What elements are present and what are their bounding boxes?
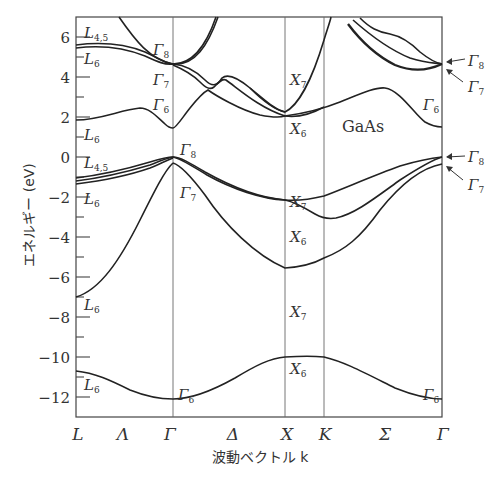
y-tick-m6: −6 [48, 269, 70, 287]
bands [76, 17, 442, 399]
y-tick-m12: −12 [38, 389, 70, 407]
material-label: GaAs [342, 117, 384, 136]
label-G7-right-vb: Γ7 [467, 176, 484, 195]
x-label-Lambda: Λ [115, 424, 129, 444]
label-L6-vb: L6 [83, 190, 100, 209]
x-label-Gamma-right: Γ [436, 424, 450, 444]
y-tick-4: 4 [60, 69, 70, 87]
y-tick-2: 2 [60, 109, 70, 127]
label-G6-cb: Γ6 [152, 96, 169, 115]
y-tick-0: 0 [60, 149, 70, 167]
band-structure-diagram: 6 4 2 0 −2 −4 −6 −8 −10 −12 エネルギー (eV) L… [0, 0, 498, 478]
label-X6-cb: X6 [289, 120, 307, 139]
x-tick-labels: L Λ Γ Δ X K Σ Γ [71, 424, 450, 444]
y-tick-m10: −10 [38, 349, 70, 367]
label-G8-vb: Γ8 [179, 141, 196, 160]
label-G8-right-vb: Γ8 [467, 148, 484, 167]
x-label-Delta: Δ [226, 424, 239, 444]
label-G6-right-bottom: Γ6 [422, 386, 439, 405]
label-X6-vb: X6 [289, 228, 307, 247]
y-axis-title: エネルギー (eV) [21, 163, 37, 267]
label-L45-top: L4,5 [83, 24, 109, 43]
label-L6-cb: L6 [83, 126, 100, 145]
y-tick-m2: −2 [48, 189, 70, 207]
plot-frame [76, 17, 442, 417]
label-L6-low: L6 [83, 296, 100, 315]
y-tick-labels: 6 4 2 0 −2 −4 −6 −8 −10 −12 [38, 29, 70, 407]
y-tick-m8: −8 [48, 309, 70, 327]
x-label-Sigma: Σ [378, 424, 392, 444]
label-G6-right-cb: Γ6 [422, 96, 439, 115]
label-G8-right-top: Γ8 [467, 52, 484, 71]
label-X6-bottom: X6 [289, 360, 307, 379]
label-X7-cb: X7 [289, 71, 307, 90]
x-label-L: L [71, 424, 83, 444]
label-G7-top: Γ7 [152, 71, 169, 90]
label-G8-top: Γ8 [152, 41, 169, 60]
label-G6-bottom: Γ6 [177, 386, 194, 405]
x-label-K: K [318, 424, 333, 444]
x-axis-title: 波動ベクトル k [212, 449, 309, 465]
y-tick-m4: −4 [48, 229, 70, 247]
x-label-Gamma: Γ [163, 424, 177, 444]
y-tick-6: 6 [60, 29, 70, 47]
label-X7-vb: X7 [289, 193, 307, 212]
label-G7-vb: Γ7 [179, 184, 196, 203]
label-G7-right-top: Γ7 [467, 78, 484, 97]
label-L6-top: L6 [83, 50, 100, 69]
x-label-X: X [279, 424, 294, 444]
label-L45-vb: L4,5 [83, 154, 109, 173]
label-X7-low: X7 [289, 303, 307, 322]
label-L6-bottom: L6 [83, 376, 100, 395]
y-ticks [76, 37, 90, 397]
